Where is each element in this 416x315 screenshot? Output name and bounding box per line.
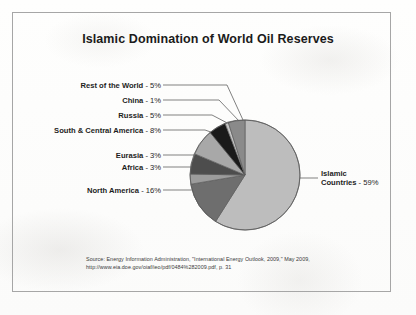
pie-label-africa: Africa - 3% xyxy=(0,163,161,172)
pie-label-russia-percent: - 5% xyxy=(143,111,161,120)
pie-label-rest-of-world-percent: - 5% xyxy=(143,81,161,90)
scanned-page: Islamic Domination of World Oil Reserves xyxy=(0,0,416,315)
pie-label-china-name: China xyxy=(122,96,143,105)
pie-label-eurasia: Eurasia - 3% xyxy=(0,151,161,160)
pie-label-rest-of-world: Rest of the World - 5% xyxy=(0,81,161,90)
pie-label-rest-of-world-name: Rest of the World xyxy=(81,81,144,90)
pie-label-africa-percent: - 3% xyxy=(143,163,161,172)
pie-label-north-america-name: North America xyxy=(87,186,139,195)
pie-label-eurasia-percent: - 3% xyxy=(143,151,161,160)
pie-label-islamic-countries-percent: - 59% xyxy=(356,178,378,187)
source-line-1: Source: Energy Information Administratio… xyxy=(86,255,376,263)
pie-label-eurasia-name: Eurasia xyxy=(116,151,143,160)
pie-label-south-central-america-percent: - 8% xyxy=(143,126,161,135)
source-line-2: http://www.eia.doe.gov/oiaf/ieo/pdf/0484… xyxy=(86,263,376,271)
pie-label-north-america: North America - 16% xyxy=(0,186,161,195)
pie-label-south-central-america: South & Central America - 8% xyxy=(0,126,161,135)
pie-label-russia-name: Russia xyxy=(118,111,143,120)
pie-label-north-america-percent: - 16% xyxy=(139,186,161,195)
pie-label-islamic-countries-name-line1: Islamic xyxy=(321,169,347,178)
pie-slices xyxy=(190,120,300,230)
pie-label-islamic-countries: Islamic Countries - 59% xyxy=(321,169,378,187)
pie-label-islamic-countries-name-line2: Countries xyxy=(321,178,356,187)
pie-label-china: China - 1% xyxy=(0,96,161,105)
source-citation: Source: Energy Information Administratio… xyxy=(86,255,376,271)
pie-label-africa-name: Africa xyxy=(122,163,144,172)
pie-label-china-percent: - 1% xyxy=(143,96,161,105)
pie-label-south-central-america-name: South & Central America xyxy=(54,126,143,135)
leader-line-china xyxy=(163,100,240,122)
pie-label-russia: Russia - 5% xyxy=(0,111,161,120)
